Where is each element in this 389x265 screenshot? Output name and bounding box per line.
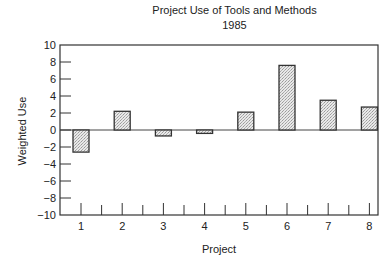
bar-project-3 xyxy=(155,130,171,136)
bar-project-2 xyxy=(114,111,130,130)
y-tick-label: −8 xyxy=(43,192,56,204)
y-axis-label: Weighted Use xyxy=(16,91,28,171)
x-tick-label: 1 xyxy=(78,220,84,232)
y-tick-label: −2 xyxy=(43,141,56,153)
x-tick-label: 4 xyxy=(202,220,208,232)
plot-area: 1086420−2−4−6−8−1012345678 xyxy=(0,0,389,265)
bar-project-6 xyxy=(279,65,295,130)
x-tick-label: 2 xyxy=(119,220,125,232)
y-tick-label: 4 xyxy=(50,90,56,102)
x-tick-label: 8 xyxy=(366,220,372,232)
y-tick-label: −10 xyxy=(37,209,56,221)
x-axis-label: Project xyxy=(60,243,378,255)
bar-project-7 xyxy=(320,100,336,130)
y-tick-label: 2 xyxy=(50,107,56,119)
y-tick-label: −6 xyxy=(43,175,56,187)
y-tick-label: 10 xyxy=(44,39,56,51)
bar-project-4 xyxy=(197,130,213,133)
y-tick-label: 8 xyxy=(50,56,56,68)
x-tick-label: 5 xyxy=(243,220,249,232)
x-tick-label: 6 xyxy=(284,220,290,232)
y-tick-label: 0 xyxy=(50,124,56,136)
y-tick-label: −4 xyxy=(43,158,56,170)
x-tick-label: 3 xyxy=(160,220,166,232)
bar-project-5 xyxy=(238,112,254,130)
bar-project-1 xyxy=(73,130,89,152)
bar-project-8 xyxy=(361,107,377,130)
y-tick-label: 6 xyxy=(50,73,56,85)
x-tick-label: 7 xyxy=(325,220,331,232)
